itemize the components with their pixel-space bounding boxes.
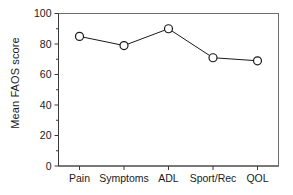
y-tick-label: 80 (40, 38, 52, 50)
x-tick-label: Symptoms (99, 172, 149, 184)
y-tick-label: 100 (34, 7, 52, 19)
y-tick-label: 40 (40, 99, 52, 111)
plot-frame (59, 14, 279, 167)
x-tick-label: Pain (69, 172, 90, 184)
y-axis-ticks: 020406080100 (34, 7, 59, 172)
data-point-marker (76, 32, 84, 40)
y-tick-label: 0 (46, 160, 52, 172)
data-point-marker (120, 42, 128, 50)
faos-line-chart: Mean FAOS score 020406080100 PainSymptom… (0, 0, 293, 195)
data-point-marker (165, 25, 173, 33)
x-tick-label: QOL (246, 172, 268, 184)
y-tick-label: 20 (40, 129, 52, 141)
x-tick-label: ADL (158, 172, 179, 184)
data-point-marker (254, 57, 262, 65)
data-point-marker (209, 54, 217, 62)
series-line (80, 29, 258, 61)
y-tick-label: 60 (40, 68, 52, 80)
x-tick-label: Sport/Rec (190, 172, 237, 184)
plot-area: 020406080100 PainSymptomsADLSport/RecQOL (0, 0, 293, 195)
x-axis-ticks: PainSymptomsADLSport/RecQOL (69, 166, 269, 184)
